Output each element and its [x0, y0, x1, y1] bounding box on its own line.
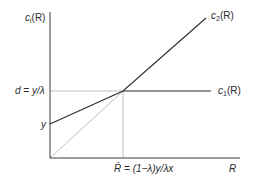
- d-tick-label: d = y/λ: [15, 86, 45, 96]
- c2-label-rest: (R): [220, 10, 234, 21]
- x-axis-label: R: [229, 164, 236, 174]
- c1-label-rest: (R): [227, 85, 241, 96]
- y-intercept-label: y: [41, 120, 46, 130]
- y-axis-label-rest: (R): [32, 12, 46, 23]
- curve-c2-label: c2(R): [211, 11, 234, 22]
- Rbar-expression: = (1−λ)y/λx: [121, 163, 173, 174]
- guide-diagonal-origin: [50, 91, 123, 158]
- curve-c2: [50, 18, 206, 124]
- Rbar-tick-label: R̄ = (1−λ)y/λx: [114, 164, 173, 174]
- y-axis-label: ci(R): [25, 13, 45, 24]
- curve-c1-label: c1(R): [218, 86, 241, 97]
- diagram-canvas: ci(R) c2(R) c1(R) d = y/λ y R̄ = (1−λ)y/…: [0, 0, 255, 189]
